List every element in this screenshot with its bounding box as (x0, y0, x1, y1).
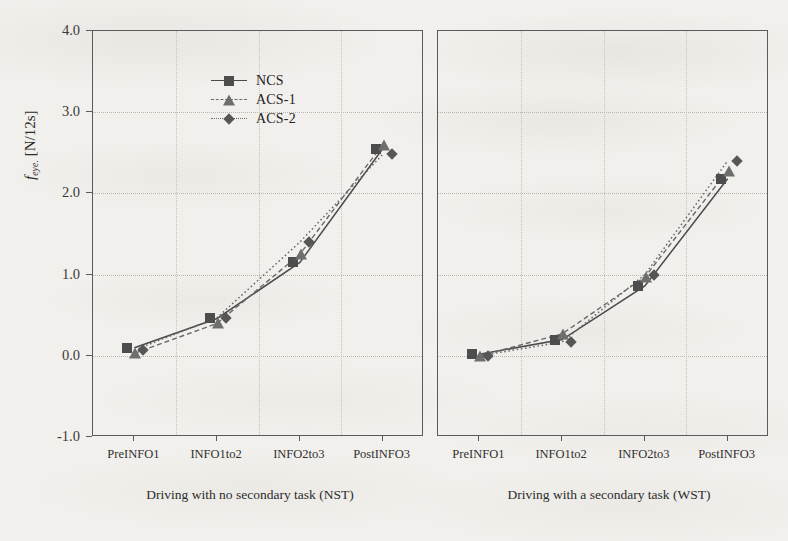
y-axis-title: feye. [N/12s] (22, 110, 40, 180)
square-marker-icon (211, 74, 247, 88)
y-tick-label: 4.0 (62, 23, 80, 38)
y-axis-symbol: f (22, 176, 38, 180)
caption-wst: Driving with a secondary task (WST) (430, 487, 788, 503)
series-line-acs-1 (134, 145, 382, 354)
y-tick-label: -1.0 (57, 429, 80, 444)
x-tick-mark (382, 436, 383, 441)
x-tick-mark (133, 436, 134, 441)
legend-item-acs1[interactable]: ACS-1 (211, 90, 296, 109)
series-line-acs-2 (479, 161, 727, 356)
legend-label-acs2: ACS-2 (256, 111, 296, 127)
legend-item-ncs[interactable]: NCS (211, 71, 296, 90)
legend-label-ncs: NCS (256, 73, 284, 89)
y-tick-mark (86, 436, 92, 437)
x-tick-label-info2to3: INFO2to3 (273, 448, 324, 461)
x-tick-mark (561, 436, 562, 441)
data-point-acs-1-info1to2 (557, 328, 569, 339)
plot-area-wst (437, 30, 768, 436)
x-tick-label-postinfo3: PostINFO3 (698, 448, 755, 461)
y-tick-label: 0.0 (62, 348, 80, 363)
series-lines-wst (438, 31, 769, 437)
figure-two-panel-line-charts: feye. [N/12s] NCS (0, 0, 788, 541)
x-tick-label-postinfo3: PostINFO3 (353, 448, 410, 461)
series-line-acs-2 (134, 154, 382, 350)
y-tick-label: 1.0 (62, 267, 80, 282)
x-tick-mark (644, 436, 645, 441)
x-tick-label-info1to2: INFO1to2 (535, 448, 586, 461)
x-tick-label-info1to2: INFO1to2 (190, 448, 241, 461)
y-tick-mark (86, 192, 92, 193)
x-tick-label-preinfo1: PreINFO1 (452, 448, 504, 461)
y-tick-mark (86, 111, 92, 112)
data-point-acs-1-postinfo3 (723, 165, 735, 176)
triangle-marker-icon (211, 93, 247, 107)
series-line-ncs (479, 179, 727, 354)
x-tick-mark (299, 436, 300, 441)
x-tick-label-info2to3: INFO2to3 (618, 448, 669, 461)
x-tick-mark (727, 436, 728, 441)
x-tick-label-preinfo1: PreINFO1 (107, 448, 159, 461)
y-axis-subscript: eye. (30, 160, 40, 176)
legend-label-acs1: ACS-1 (256, 92, 296, 108)
plot-area-nst: NCS ACS-1 ACS-2 (92, 30, 423, 436)
y-tick-label: 2.0 (62, 185, 80, 200)
legend-item-acs2[interactable]: ACS-2 (211, 109, 296, 128)
y-tick-label: 3.0 (62, 104, 80, 119)
chart-legend: NCS ACS-1 ACS-2 (211, 71, 296, 128)
diamond-marker-icon (211, 112, 247, 126)
y-axis-unit: [N/12s] (22, 110, 38, 160)
data-point-acs-1-info2to3 (295, 249, 307, 260)
y-tick-mark (86, 355, 92, 356)
x-tick-mark (478, 436, 479, 441)
caption-nst: Driving with no secondary task (NST) (0, 487, 430, 503)
series-line-ncs (134, 149, 382, 348)
data-point-acs-1-postinfo3 (378, 139, 390, 150)
x-tick-mark (216, 436, 217, 441)
y-tick-mark (86, 274, 92, 275)
series-line-acs-1 (479, 171, 727, 356)
y-tick-mark (86, 30, 92, 31)
